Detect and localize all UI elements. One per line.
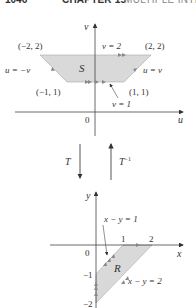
inverse-label: T−1	[119, 156, 131, 167]
bottom-graph: y x 0 1 2 −1 −2 R x − y = 1 x − y = 2	[50, 190, 183, 308]
inverse-superscript: −1	[125, 156, 131, 162]
x-tick-1: 1	[121, 234, 126, 244]
boundary-label-top: v = 2	[102, 41, 122, 51]
vertex-neg2-2: (−2, 2)	[18, 41, 43, 51]
v-axis-label: v	[84, 21, 89, 32]
vertex-1-1: (1, 1)	[129, 87, 149, 97]
region-r-label: R	[113, 262, 121, 274]
x-axis-label: x	[176, 248, 182, 259]
boundary-label-left: u = −v	[5, 65, 30, 75]
boundary-label-bottom: v = 1	[112, 99, 131, 109]
vertex-2-2: (2, 2)	[145, 41, 165, 51]
v1-pointer	[110, 84, 118, 98]
vertex-neg1-1: (−1, 1)	[36, 87, 61, 97]
forward-label: T	[65, 156, 72, 167]
bottom-origin-label: 0	[85, 248, 90, 258]
top-origin-label: 0	[85, 115, 90, 125]
xy1-pointer	[103, 225, 107, 255]
figure: v u 0 S (−2, 2) (2, 2) (−1, 1) (1, 1) v …	[0, 0, 196, 308]
top-graph: v u 0 S (−2, 2) (2, 2) (−1, 1) (1, 1) v …	[5, 21, 183, 136]
region-s	[40, 55, 151, 82]
y-tick-neg2: −2	[83, 299, 93, 308]
transform-arrows: T T−1	[65, 144, 131, 180]
boundary-label-right: u = v	[143, 65, 162, 75]
x-tick-2: 2	[149, 234, 154, 244]
y-axis-label: y	[85, 190, 91, 201]
boundary-label-lower: x − y = 2	[127, 276, 162, 286]
region-s-label: S	[79, 62, 85, 74]
region-r	[96, 245, 152, 303]
u-axis-label: u	[178, 114, 183, 125]
boundary-label-upper: x − y = 1	[103, 214, 138, 224]
y-tick-neg1: −1	[83, 270, 93, 280]
